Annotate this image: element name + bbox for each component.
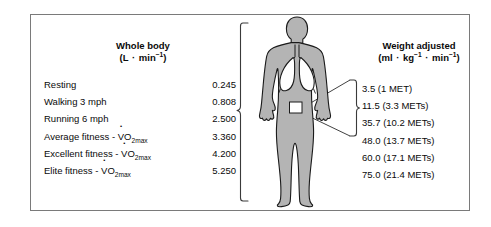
row-label: Running 6 mph xyxy=(44,112,108,125)
weight-adjusted-column-header: Weight adjusted (ml · kg−1 · min−1) xyxy=(352,40,486,64)
table-row: Walking 3 mph0.808 xyxy=(44,95,236,112)
whole-body-value: 5.250 xyxy=(212,164,236,177)
v-dot-symbol: V xyxy=(101,164,107,177)
whole-body-value: 0.245 xyxy=(212,78,236,91)
whole-body-table: Resting0.245Walking 3 mph0.808Running 6 … xyxy=(44,78,236,181)
row-label: Walking 3 mph xyxy=(44,95,106,108)
table-row: Elite fitness - VO2max5.250 xyxy=(44,164,236,181)
weight-adjusted-value: 11.5 (3.3 METs) xyxy=(362,100,428,111)
row-label: Average fitness - VO2max xyxy=(44,130,148,143)
whole-body-column-header: Whole body (L · min−1) xyxy=(78,40,208,64)
weight-adjusted-table: 3.5 (1 MET)11.5 (3.3 METs)35.7 (10.2 MET… xyxy=(362,78,488,181)
weight-adjusted-value: 60.0 (17.1 METs) xyxy=(362,152,434,163)
table-row: 48.0 (13.7 METs) xyxy=(362,130,488,147)
vo2max-subscript: 2max xyxy=(115,171,131,178)
table-row: Average fitness - VO2max3.360 xyxy=(44,130,236,147)
weight-adjusted-value: 48.0 (13.7 METs) xyxy=(362,135,434,146)
weight-adjusted-value: 3.5 (1 MET) xyxy=(362,83,412,94)
weight-adjusted-units: (ml · kg−1 · min−1) xyxy=(352,52,486,64)
whole-body-value: 3.360 xyxy=(212,130,236,143)
table-row: Resting0.245 xyxy=(44,78,236,95)
whole-body-value: 0.808 xyxy=(212,95,236,108)
row-label: Resting xyxy=(44,78,76,91)
table-row: Excellent fitness - VO2max4.200 xyxy=(44,147,236,164)
whole-body-units: (L · min−1) xyxy=(78,52,208,64)
whole-body-value: 4.200 xyxy=(212,147,236,160)
weight-adjusted-value: 35.7 (10.2 METs) xyxy=(362,117,434,128)
whole-body-title: Whole body xyxy=(78,40,208,52)
weight-adjusted-value: 75.0 (21.4 METs) xyxy=(362,169,434,180)
row-label: Excellent fitness - VO2max xyxy=(44,147,151,160)
vo2max-subscript: 2max xyxy=(135,154,151,161)
v-dot-symbol: V xyxy=(121,147,127,160)
table-row: Running 6 mph2.500 xyxy=(44,112,236,129)
table-row: 60.0 (17.1 METs) xyxy=(362,147,488,164)
whole-body-value: 2.500 xyxy=(212,112,236,125)
row-label: Elite fitness - VO2max xyxy=(44,164,131,177)
table-row: 3.5 (1 MET) xyxy=(362,78,488,95)
table-row: 11.5 (3.3 METs) xyxy=(362,95,488,112)
figure-container: Whole body (L · min−1) Weight adjusted (… xyxy=(0,0,491,227)
table-row: 75.0 (21.4 METs) xyxy=(362,164,488,181)
table-row: 35.7 (10.2 METs) xyxy=(362,112,488,129)
vo2max-subscript: 2max xyxy=(132,136,148,143)
